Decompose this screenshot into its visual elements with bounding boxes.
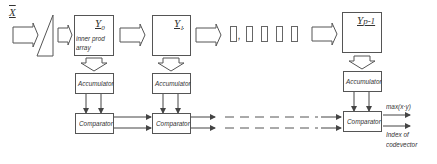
input-label-x: X — [9, 6, 16, 18]
array-caption: array — [76, 43, 91, 52]
accumulator-0-label: Accumulator — [78, 79, 114, 88]
ellipsis-box-1 — [230, 26, 237, 42]
arrow-y0-y1 — [120, 24, 145, 46]
input-arrow — [13, 23, 38, 47]
codevector-label-y0: Y0 — [95, 17, 105, 32]
inner-prod-caption: inner prod — [76, 34, 105, 43]
comparator-1-label: Comparator — [156, 119, 190, 128]
down-arrow-2 — [349, 56, 375, 69]
output-index-label-1: Index of — [386, 130, 409, 139]
triangle-shape — [37, 15, 53, 56]
ellipsis-comma: , — [238, 30, 241, 41]
comparator-1: Comparator — [152, 113, 191, 134]
output-index-label-2: codevector — [386, 140, 417, 149]
accumulator-2: Accumulator — [343, 71, 382, 92]
comparator-2: Comparator — [343, 111, 382, 132]
ellipsis-box-3 — [261, 26, 268, 42]
comparator-2-label: Comparator — [347, 117, 381, 126]
codevector-label-yp-1: Yp-1 — [357, 14, 375, 26]
ellipsis-box-2 — [246, 26, 253, 42]
output-max-label: max(x·y) — [386, 102, 411, 111]
down-arrow-1 — [158, 58, 184, 71]
codevector-label-y1: Y1 — [174, 17, 184, 32]
accumulator-1: Accumulator — [152, 73, 191, 94]
ellipsis-box-4 — [276, 26, 283, 42]
ellipsis-box-5 — [291, 26, 298, 42]
codevector-box-yp-1: Yp-1 — [342, 12, 382, 53]
down-arrow-0 — [81, 58, 107, 71]
arrow-dots-yp1 — [312, 23, 337, 45]
accumulator-2-label: Accumulator — [346, 77, 382, 86]
codevector-box-y1: Y1 — [152, 15, 191, 56]
comparator-0: Comparator — [75, 113, 114, 134]
accumulator-0: Accumulator — [75, 73, 114, 94]
comparator-0-label: Comparator — [79, 119, 113, 128]
arrow-to-y0 — [58, 25, 72, 45]
arrow-y1-dots — [196, 24, 221, 46]
accumulator-1-label: Accumulator — [155, 79, 191, 88]
codevector-box-y0: Y0 inner prod array — [74, 15, 114, 56]
